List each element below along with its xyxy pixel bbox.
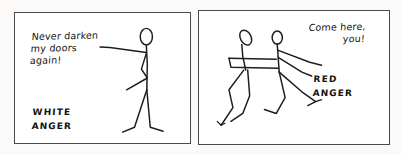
label-white-anger: WHITE ANGER: [31, 106, 73, 134]
rear-figure-front-leg: [231, 70, 250, 121]
front-figure-back-leg: [264, 72, 285, 113]
label-red-anger: RED ANGER: [312, 73, 354, 101]
figure-head-icon: [140, 28, 152, 45]
rear-figure-head-icon: [237, 28, 254, 47]
rear-figure-back-leg: [221, 70, 244, 125]
speech-text-red-anger: Come here, you!: [307, 21, 366, 46]
rear-figure-torso: [242, 44, 246, 70]
comic-strip: Never darken my doors again! WHITE ANGER: [0, 0, 402, 155]
speech-text-white-anger: Never darken my doors again!: [30, 30, 99, 67]
comic-panel-red-anger: Come here, you! RED ANGER: [198, 10, 390, 145]
comic-panel-white-anger: Never darken my doors again! WHITE ANGER: [14, 12, 191, 144]
front-figure-lower-arm: [278, 57, 311, 76]
figure-front-leg: [147, 90, 163, 131]
figure-bent-arm: [127, 53, 148, 89]
figure-pointing-arm: [100, 47, 146, 52]
front-figure-head-icon: [272, 31, 282, 44]
front-figure-upper-arm: [278, 50, 321, 65]
front-figure-front-leg: [279, 72, 315, 105]
figure-back-leg: [123, 90, 147, 132]
rear-figure-arm-upper: [229, 58, 276, 59]
